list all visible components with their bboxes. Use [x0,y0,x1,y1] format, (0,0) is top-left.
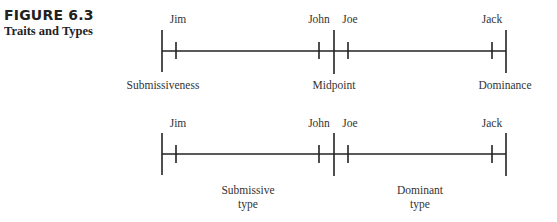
label-joe: Joe [342,12,357,26]
submissive-type-line2: type [221,197,274,211]
submissive-type-line1: Submissive [221,183,274,197]
type-label-jim: Jim [170,116,187,130]
dominant-type-line2: type [397,197,443,211]
continuous-trait-axis [162,30,506,74]
label-john: John [308,12,330,26]
label-jim: Jim [170,12,187,26]
type-label-joe: Joe [342,116,357,130]
submissive-type-label: Submissive type [221,183,274,211]
type-label-john: John [308,116,330,130]
type-label-jack: Jack [482,116,502,130]
dominant-type-line1: Dominant [397,183,443,197]
label-submissiveness: Submissiveness [127,78,200,92]
type-axis [162,133,506,176]
trait-continuum-diagram [0,0,557,222]
label-dominance: Dominance [478,78,531,92]
label-midpoint: Midpoint [313,78,356,92]
dominant-type-label: Dominant type [397,183,443,211]
label-jack: Jack [482,12,502,26]
